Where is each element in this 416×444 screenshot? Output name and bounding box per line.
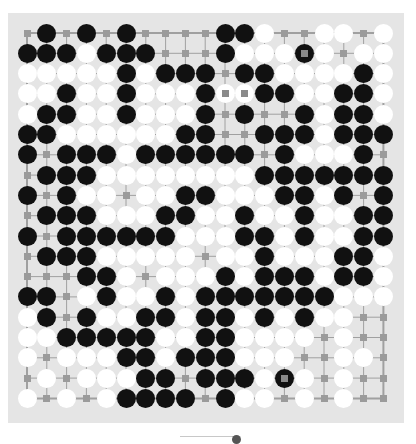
- empty-point-marker[interactable]: [380, 354, 387, 361]
- white-stone[interactable]: [295, 84, 314, 103]
- black-stone[interactable]: [354, 227, 373, 246]
- white-stone[interactable]: [315, 227, 334, 246]
- white-stone[interactable]: [216, 84, 235, 103]
- black-stone[interactable]: [97, 227, 116, 246]
- empty-point-marker[interactable]: [142, 273, 149, 280]
- black-stone[interactable]: [196, 64, 215, 83]
- black-stone[interactable]: [354, 247, 373, 266]
- empty-point-marker[interactable]: [281, 30, 288, 37]
- black-stone[interactable]: [295, 287, 314, 306]
- empty-point-marker[interactable]: [340, 50, 347, 57]
- white-stone[interactable]: [374, 24, 393, 43]
- empty-point-marker[interactable]: [202, 395, 209, 402]
- black-stone[interactable]: [57, 186, 76, 205]
- white-stone[interactable]: [255, 24, 274, 43]
- white-stone[interactable]: [255, 369, 274, 388]
- black-stone[interactable]: [295, 206, 314, 225]
- white-stone[interactable]: [315, 24, 334, 43]
- white-stone[interactable]: [77, 186, 96, 205]
- white-stone[interactable]: [97, 247, 116, 266]
- black-stone[interactable]: [57, 105, 76, 124]
- white-stone[interactable]: [77, 105, 96, 124]
- black-stone[interactable]: [156, 389, 175, 408]
- white-stone[interactable]: [117, 308, 136, 327]
- black-stone[interactable]: [275, 166, 294, 185]
- black-stone[interactable]: [117, 389, 136, 408]
- black-stone[interactable]: [176, 64, 195, 83]
- white-stone[interactable]: [97, 308, 116, 327]
- empty-point-marker[interactable]: [321, 354, 328, 361]
- white-stone[interactable]: [334, 227, 353, 246]
- black-stone[interactable]: [275, 369, 294, 388]
- white-stone[interactable]: [315, 105, 334, 124]
- white-stone[interactable]: [196, 166, 215, 185]
- empty-point-marker[interactable]: [24, 212, 31, 219]
- white-stone[interactable]: [255, 186, 274, 205]
- white-stone[interactable]: [295, 369, 314, 388]
- white-stone[interactable]: [334, 308, 353, 327]
- empty-point-marker[interactable]: [43, 151, 50, 158]
- white-stone[interactable]: [97, 206, 116, 225]
- black-stone[interactable]: [196, 308, 215, 327]
- empty-point-marker[interactable]: [24, 253, 31, 260]
- white-stone[interactable]: [176, 105, 195, 124]
- black-stone[interactable]: [57, 247, 76, 266]
- black-stone[interactable]: [117, 105, 136, 124]
- empty-point-marker[interactable]: [301, 30, 308, 37]
- move-slider[interactable]: [180, 436, 236, 442]
- white-stone[interactable]: [18, 328, 37, 347]
- white-stone[interactable]: [57, 389, 76, 408]
- white-stone[interactable]: [275, 206, 294, 225]
- white-stone[interactable]: [18, 348, 37, 367]
- white-stone[interactable]: [334, 24, 353, 43]
- black-stone[interactable]: [57, 44, 76, 63]
- white-stone[interactable]: [97, 64, 116, 83]
- black-stone[interactable]: [295, 125, 314, 144]
- black-stone[interactable]: [196, 125, 215, 144]
- white-stone[interactable]: [117, 166, 136, 185]
- empty-point-marker[interactable]: [241, 131, 248, 138]
- white-stone[interactable]: [216, 166, 235, 185]
- empty-point-marker[interactable]: [182, 50, 189, 57]
- black-stone[interactable]: [37, 105, 56, 124]
- white-stone[interactable]: [275, 64, 294, 83]
- white-stone[interactable]: [315, 206, 334, 225]
- white-stone[interactable]: [315, 267, 334, 286]
- white-stone[interactable]: [176, 267, 195, 286]
- black-stone[interactable]: [216, 145, 235, 164]
- empty-point-marker[interactable]: [63, 314, 70, 321]
- black-stone[interactable]: [18, 44, 37, 63]
- empty-point-marker[interactable]: [222, 70, 229, 77]
- white-stone[interactable]: [176, 166, 195, 185]
- white-stone[interactable]: [156, 186, 175, 205]
- black-stone[interactable]: [235, 227, 254, 246]
- black-stone[interactable]: [196, 369, 215, 388]
- black-stone[interactable]: [374, 125, 393, 144]
- empty-point-marker[interactable]: [43, 354, 50, 361]
- black-stone[interactable]: [77, 24, 96, 43]
- white-stone[interactable]: [295, 247, 314, 266]
- white-stone[interactable]: [97, 125, 116, 144]
- empty-point-marker[interactable]: [24, 172, 31, 179]
- black-stone[interactable]: [334, 166, 353, 185]
- empty-point-marker[interactable]: [43, 192, 50, 199]
- black-stone[interactable]: [176, 125, 195, 144]
- white-stone[interactable]: [315, 125, 334, 144]
- black-stone[interactable]: [77, 308, 96, 327]
- white-stone[interactable]: [97, 186, 116, 205]
- white-stone[interactable]: [117, 369, 136, 388]
- empty-point-marker[interactable]: [162, 30, 169, 37]
- empty-point-marker[interactable]: [43, 233, 50, 240]
- black-stone[interactable]: [354, 125, 373, 144]
- empty-point-marker[interactable]: [360, 314, 367, 321]
- white-stone[interactable]: [77, 44, 96, 63]
- white-stone[interactable]: [77, 125, 96, 144]
- empty-point-marker[interactable]: [202, 30, 209, 37]
- black-stone[interactable]: [315, 287, 334, 306]
- black-stone[interactable]: [235, 369, 254, 388]
- slider-handle[interactable]: [232, 435, 241, 444]
- black-stone[interactable]: [235, 105, 254, 124]
- black-stone[interactable]: [57, 328, 76, 347]
- white-stone[interactable]: [374, 247, 393, 266]
- white-stone[interactable]: [235, 44, 254, 63]
